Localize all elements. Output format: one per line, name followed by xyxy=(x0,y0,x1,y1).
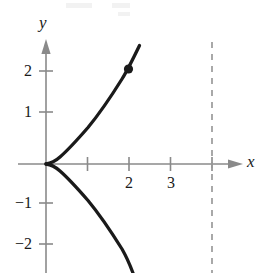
y-tick-label-2: 2 xyxy=(2,63,32,79)
y-tick-label-minus-2: −2 xyxy=(0,236,32,252)
x-axis-label: x xyxy=(247,153,255,170)
y-axis xyxy=(41,39,50,273)
graph-figure: y x 2 1 −1 −2 2 3 xyxy=(0,0,267,273)
x-tick-label-2: 2 xyxy=(114,175,144,191)
y-tick-label-1: 1 xyxy=(2,104,32,120)
x-tick-label-3: 3 xyxy=(156,175,186,191)
curve-upper-branch xyxy=(46,46,140,165)
y-axis-label: y xyxy=(39,14,47,31)
y-tick-label-minus-1: −1 xyxy=(0,195,32,211)
plot-canvas xyxy=(0,0,267,273)
marked-point xyxy=(124,64,133,73)
